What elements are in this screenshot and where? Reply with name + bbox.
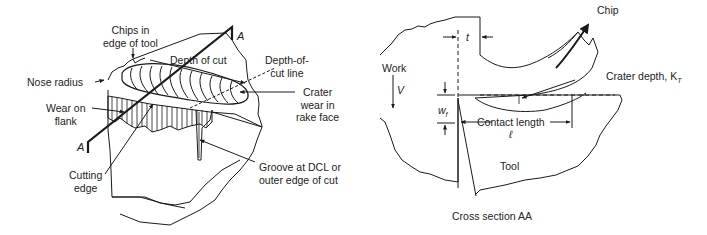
crater-curve — [475, 93, 586, 112]
label-wf-subscript: f — [446, 111, 448, 118]
label-crater-depth-subscript: T — [677, 77, 681, 84]
label-depth-of-cut-line: Depth-of- cut line — [265, 54, 309, 79]
tool-outline-left — [108, 90, 185, 208]
cutting-edge-line — [108, 96, 262, 127]
label-crater-wear-line2: wear in — [296, 99, 339, 112]
label-contact-length-symbol: ℓ — [509, 128, 512, 141]
label-chip: Chip — [597, 4, 619, 17]
label-work: Work — [382, 62, 406, 75]
label-groove-line1: Groove at DCL or — [259, 161, 341, 174]
label-tool: Tool — [500, 160, 519, 173]
label-cutting-edge-line1: Cutting — [69, 169, 102, 182]
label-depth-of-cut: Depth of cut — [170, 54, 227, 67]
label-chips-in-edge: Chips in edge of tool — [103, 24, 158, 49]
label-wear-on-flank: Wear on flank — [46, 102, 86, 127]
tool-wear-figure: Chips in edge of tool Depth of cut Depth… — [0, 0, 707, 235]
label-depth-of-cut-line-2: cut line — [265, 67, 309, 80]
tool-flank — [458, 100, 476, 196]
chip-outline — [475, 32, 598, 98]
tool-outline-right — [475, 95, 622, 195]
label-crater-depth-text: Crater depth, K — [606, 70, 677, 82]
label-chips-in-edge-line2: edge of tool — [103, 37, 158, 50]
label-t: t — [466, 31, 469, 44]
label-nose-radius: Nose radius — [27, 76, 83, 89]
label-crater-wear-line1: Crater — [296, 86, 339, 99]
section-marker-a-top: A — [237, 30, 244, 43]
label-wf-text: w — [438, 104, 446, 116]
label-groove-dcl: Groove at DCL or outer edge of cut — [259, 161, 341, 186]
label-cutting-edge-line2: edge — [69, 182, 102, 195]
label-cutting-edge: Cutting edge — [69, 169, 102, 194]
label-wear-on-flank-line1: Wear on — [46, 102, 86, 115]
caption-cross-section-aa: Cross section AA — [452, 210, 532, 223]
work-outline-top — [380, 17, 480, 55]
label-crater-wear-line3: rake face — [296, 111, 339, 124]
label-wear-on-flank-line2: flank — [46, 115, 86, 128]
label-velocity: V — [397, 84, 404, 97]
label-wf: wf — [438, 104, 448, 122]
label-groove-line2: outer edge of cut — [259, 174, 341, 187]
label-crater-wear: Crater wear in rake face — [296, 86, 339, 124]
label-contact-length: Contact length — [477, 116, 545, 129]
section-marker-a-bottom: A — [77, 141, 84, 154]
groove-dcl — [196, 110, 212, 160]
label-depth-of-cut-line-1: Depth-of- — [265, 54, 309, 67]
label-crater-depth: Crater depth, KT — [606, 70, 681, 88]
flank-wear-hatch — [112, 97, 207, 132]
chip-direction-arrow — [556, 25, 588, 68]
tool-outline-right — [120, 127, 262, 225]
label-chips-in-edge-line1: Chips in — [103, 24, 158, 37]
